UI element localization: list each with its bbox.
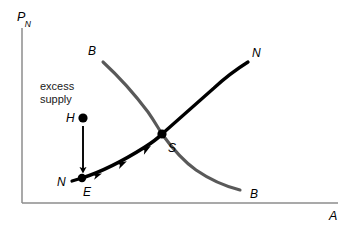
diagram-canvas [0,0,348,230]
excess-supply-annotation-line2: supply [40,93,72,106]
y-axis-label: PN [17,11,31,26]
curve-n-upper [162,62,248,134]
x-axis-label: A [329,210,337,223]
point-h-label: H [66,112,75,124]
curve-n-left-label: N [57,176,66,188]
point-h-dot [78,113,87,122]
path-e-to-s [82,134,162,178]
curve-n-top-label: N [252,47,261,59]
curve-b-top-label: B [88,45,96,57]
y-axis-label-subscript: N [25,19,31,29]
point-s-dot [157,129,166,138]
point-e-label: E [83,186,91,198]
point-e-dot [78,174,86,182]
curve-b-bottom-label: B [250,188,258,200]
excess-supply-annotation-line1: excess [40,80,74,93]
point-s-label: S [168,142,176,154]
economics-diagram: PN A B B N N H E S excess supply [0,0,348,230]
